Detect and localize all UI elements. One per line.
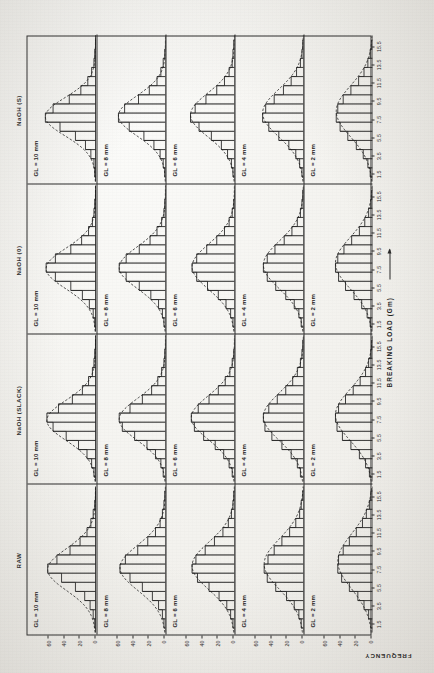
x-tick-mark [371,269,374,270]
histogram-plot [235,484,303,634]
y-tick-label: 20 [76,640,82,655]
y-tick-label: 20 [145,640,151,655]
x-tick-mark [371,623,374,624]
y-tick-label: 40 [267,640,273,655]
x-tick-label: 15.5 [375,485,381,507]
x-tick-mark [371,605,374,606]
y-tick-mark [201,635,202,638]
histogram-outline [335,190,372,327]
normal-curve-overlay [263,185,303,331]
histogram-outline [45,40,95,177]
y-tick-label: 20 [352,640,358,655]
histogram-outline [264,491,303,628]
x-tick-mark [371,196,374,197]
figure: RAW NaOH (SLACK) NaOH (0) NaOH (S) GL = … [0,0,434,673]
histogram-plot [27,184,96,333]
y-tick-label: 20 [214,640,220,655]
histogram-plot [97,184,165,333]
plot-cell: GL = 10 mm [27,34,96,184]
x-tick-mark [371,305,374,306]
y-tick-mark [339,635,340,638]
histogram-plot [304,484,372,634]
histogram-plot [166,484,234,634]
normal-curve-overlay [335,335,372,481]
plot-cell: GL = 4 mm [234,34,303,184]
histogram-plot [166,334,234,483]
normal-curve-overlay [119,486,164,632]
x-tick-mark [371,419,374,420]
histogram-outline [191,340,234,477]
y-tick-label: 40 [336,640,342,655]
y-tick-mark [216,635,217,638]
x-axis-title: BREAKING LOAD (Gm) [385,297,392,387]
plot-cell: GL = 4 mm [234,184,303,334]
plot-cell: GL = 2 mm [303,334,372,484]
histogram-plot [27,484,96,634]
plot-cell: GL = 2 mm [303,34,372,184]
y-tick-mark [301,635,302,638]
y-tick-mark [354,635,355,638]
x-tick-mark [371,119,374,120]
column-title-naoh-s: NaOH (S) [14,35,21,185]
histogram-outline [263,340,303,477]
histogram-plot [166,184,234,333]
x-tick-mark [371,364,374,365]
x-tick-mark [371,250,374,251]
x-tick-mark [371,287,374,288]
plot-cell: GL = 6 mm [165,334,234,484]
x-tick-mark [371,214,374,215]
y-tick-label: 60 [183,640,189,655]
x-tick-mark [371,155,374,156]
histogram-outline [263,190,303,327]
x-tick-mark [371,100,374,101]
plot-cell: GL = 4 mm [234,334,303,484]
y-tick-mark [285,635,286,638]
x-tick-mark [371,437,374,438]
y-tick-mark [254,635,255,638]
normal-curve-overlay [46,185,95,331]
normal-curve-overlay [47,486,95,632]
histogram-outline [192,190,234,327]
y-tick-mark [63,635,64,638]
y-tick-label: 60 [114,640,120,655]
histogram-plot [235,34,303,183]
histogram-outline [335,340,372,477]
plot-matrix: GL = 10 mmGL = 8 mmGL = 6 mmGL = 4 mmGL … [26,35,371,635]
plot-cell: GL = 4 mm [234,484,303,634]
histogram-outline [118,40,165,177]
y-tick-label: 20 [283,640,289,655]
y-tick-label: 0 [298,640,304,655]
histogram-outline [336,40,372,177]
x-tick-label: 15.5 [375,185,381,207]
plot-cell: GL = 2 mm [303,184,372,334]
histogram-plot [304,334,372,483]
y-tick-label: 60 [321,640,327,655]
plot-cell: GL = 8 mm [96,334,165,484]
x-tick-mark [371,550,374,551]
x-tick-mark [371,82,374,83]
x-tick-mark [371,323,374,324]
histogram-plot [235,334,303,483]
histogram-plot [97,334,165,483]
y-tick-label: 40 [198,640,204,655]
y-tick-label: 60 [45,640,51,655]
y-tick-mark [323,635,324,638]
x-tick-mark [371,455,374,456]
plot-cell: GL = 6 mm [165,184,234,334]
x-tick-mark [371,64,374,65]
x-tick-label: 15.5 [375,35,381,57]
y-tick-mark [78,635,79,638]
x-tick-mark [371,569,374,570]
plot-cell: GL = 6 mm [165,34,234,184]
x-tick-mark [371,232,374,233]
x-tick-mark [371,46,374,47]
x-tick-mark [371,532,374,533]
normal-curve-overlay [336,35,372,181]
y-tick-label: 40 [60,640,66,655]
y-tick-label: 40 [129,640,135,655]
column-title-naoh-0: NaOH (0) [14,185,21,335]
y-tick-mark [270,635,271,638]
y-tick-mark [232,635,233,638]
plot-cell: GL = 8 mm [96,184,165,334]
histogram-outline [337,491,372,628]
